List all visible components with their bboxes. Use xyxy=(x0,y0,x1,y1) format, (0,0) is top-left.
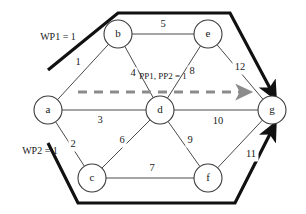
graph-diagram: WP1 = 1 WP2 = 1 123456789101112 PP1, PP2… xyxy=(0,0,306,214)
edge-weight-c-d: 6 xyxy=(119,134,124,145)
node-b[interactable]: b xyxy=(104,20,132,48)
edge-d-f xyxy=(168,121,200,166)
edge-weight-d-g: 10 xyxy=(213,115,224,126)
edge-weight-c-f: 7 xyxy=(149,162,154,173)
protection-path-pp: PP1, PP2 = 1 xyxy=(78,71,243,92)
wp1-label: WP1 = 1 xyxy=(40,31,76,42)
edge-weight-f-g: 11 xyxy=(246,148,256,159)
edge-weight-d-f: 9 xyxy=(187,134,192,145)
node-a[interactable]: a xyxy=(34,96,62,124)
node-label-f: f xyxy=(206,171,210,183)
node-label-g: g xyxy=(269,103,275,115)
edge-weight-a-d: 3 xyxy=(97,114,102,125)
node-label-c: c xyxy=(90,171,95,183)
pp-label: PP1, PP2 = 1 xyxy=(139,71,187,81)
wp2-polyline xyxy=(48,130,272,203)
node-label-b: b xyxy=(115,27,121,39)
edge-weight-e-g: 12 xyxy=(235,61,246,72)
edge-weight-b-d: 4 xyxy=(130,67,136,78)
node-f[interactable]: f xyxy=(194,164,222,192)
edge-weight-b-e: 5 xyxy=(160,18,165,29)
node-c[interactable]: c xyxy=(78,164,106,192)
node-label-d: d xyxy=(157,103,163,115)
node-label-e: e xyxy=(206,27,211,39)
node-e[interactable]: e xyxy=(194,20,222,48)
wp2-label: WP2 = 1 xyxy=(22,145,58,156)
working-path-wp2: WP2 = 1 xyxy=(22,130,272,203)
edge-weight-a-b: 1 xyxy=(75,56,80,67)
graph-canvas: WP1 = 1 WP2 = 1 123456789101112 PP1, PP2… xyxy=(0,0,306,214)
edge-weight-a-c: 2 xyxy=(70,138,75,149)
node-label-a: a xyxy=(46,103,51,115)
edge-weight-d-e: 8 xyxy=(189,65,194,76)
node-g[interactable]: g xyxy=(258,96,286,124)
node-d[interactable]: d xyxy=(146,96,174,124)
